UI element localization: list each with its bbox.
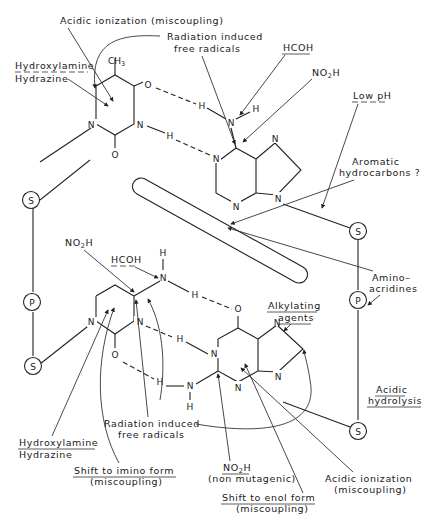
top-hydrogen-bonds: H H	[147, 88, 226, 156]
svg-text:O: O	[144, 80, 151, 90]
svg-text:N: N	[272, 134, 279, 144]
left-top-sugar: S	[23, 192, 40, 209]
svg-text:N: N	[275, 372, 282, 382]
mutagen-dna-diagram: S P S S P S	[0, 0, 446, 526]
svg-text:Radiation induced: Radiation induced	[167, 31, 263, 42]
svg-text:hydrolysis: hydrolysis	[368, 395, 422, 406]
svg-text:Shift to imino form: Shift to imino form	[74, 465, 174, 476]
svg-text:Amino–: Amino–	[372, 272, 411, 283]
svg-text:(non mutagenic): (non mutagenic)	[208, 473, 296, 484]
svg-text:free radicals: free radicals	[118, 429, 185, 440]
svg-text:O: O	[111, 350, 118, 360]
svg-text:S: S	[355, 427, 361, 437]
svg-text:Hydroxylamine: Hydroxylamine	[15, 60, 94, 71]
svg-text:Hydrazine: Hydrazine	[15, 73, 68, 84]
label-amino-acridines: Amino– acridines	[228, 228, 417, 305]
svg-text:O: O	[234, 304, 241, 314]
svg-text:H: H	[192, 290, 199, 300]
top-purine: N H N N N N	[211, 104, 301, 212]
svg-text:N: N	[275, 194, 282, 204]
svg-text:H: H	[177, 334, 184, 344]
label-radiation-top: Radiation induced free radicals	[94, 31, 262, 144]
svg-text:N: N	[160, 273, 167, 283]
svg-text:Low pH: Low pH	[353, 90, 392, 101]
svg-text:(miscoupling): (miscoupling)	[334, 484, 406, 495]
svg-text:Alkylating: Alkylating	[268, 300, 321, 311]
svg-text:Acidic ionization: Acidic ionization	[325, 473, 412, 484]
svg-text:N: N	[137, 120, 144, 130]
svg-text:S: S	[28, 196, 34, 206]
svg-text:N: N	[88, 317, 95, 327]
svg-text:H: H	[253, 104, 260, 114]
label-hcoh-top: HCOH	[240, 42, 314, 115]
svg-text:Aromatic: Aromatic	[352, 156, 399, 167]
svg-text:S: S	[355, 227, 361, 237]
left-backbone: S P S	[23, 160, 93, 375]
left-phosphate: P	[24, 294, 41, 311]
label-acidic-ionization-top: Acidic ionization (miscoupling)	[60, 15, 224, 101]
right-bottom-sugar: S	[350, 423, 367, 440]
svg-text:(miscoupling): (miscoupling)	[90, 476, 162, 487]
svg-text:free radicals: free radicals	[174, 43, 241, 54]
svg-text:H: H	[160, 248, 167, 258]
svg-text:Hydrazine: Hydrazine	[19, 449, 72, 460]
svg-text:NO2H: NO2H	[65, 237, 93, 250]
svg-text:Radiation induced: Radiation induced	[104, 418, 200, 429]
svg-text:N: N	[233, 202, 240, 212]
label-hydroxylamine-top: Hydroxylamine Hydrazine	[15, 60, 108, 106]
label-low-ph: Low pH	[322, 90, 392, 208]
svg-text:Acidic ionization (miscoupling: Acidic ionization (miscoupling)	[60, 15, 224, 26]
svg-text:P: P	[29, 298, 35, 308]
label-hcoh-mid: HCOH	[111, 254, 158, 278]
svg-text:acridines: acridines	[369, 283, 417, 294]
svg-text:N: N	[213, 154, 220, 164]
svg-text:N: N	[235, 383, 242, 393]
svg-text:Acidic: Acidic	[376, 384, 408, 395]
svg-text:S: S	[30, 362, 36, 372]
right-phosphate: P	[350, 292, 367, 309]
svg-text:Shift to enol form: Shift to enol form	[222, 492, 315, 503]
methyl-label: CH3	[108, 56, 125, 68]
svg-text:HCOH: HCOH	[283, 42, 314, 53]
svg-text:HCOH: HCOH	[111, 254, 142, 265]
label-hydroxylamine-bottom: Hydroxylamine Hydrazine	[18, 310, 108, 460]
svg-text:P: P	[355, 296, 361, 306]
svg-text:Hydroxylamine: Hydroxylamine	[19, 437, 98, 448]
right-top-sugar: S	[350, 223, 367, 240]
svg-text:O: O	[111, 150, 118, 160]
svg-text:hydrocarbons ?: hydrocarbons ?	[339, 167, 420, 178]
svg-text:H: H	[187, 402, 194, 412]
svg-text:NO2H: NO2H	[312, 67, 340, 80]
svg-text:H: H	[199, 101, 206, 111]
svg-text:H: H	[167, 131, 174, 141]
svg-text:agents: agents	[278, 312, 314, 323]
label-aromatic-hydrocarbons: Aromatic hydrocarbons ?	[231, 156, 420, 224]
bottom-pyrimidine: N N O N H H H H	[87, 248, 232, 387]
svg-text:(miscoupling): (miscoupling)	[236, 503, 308, 514]
svg-text:N: N	[187, 381, 194, 391]
svg-text:N: N	[211, 349, 218, 359]
left-bottom-sugar: S	[25, 358, 42, 375]
label-acidic-hydrolysis: Acidic hydrolysis	[367, 384, 422, 407]
